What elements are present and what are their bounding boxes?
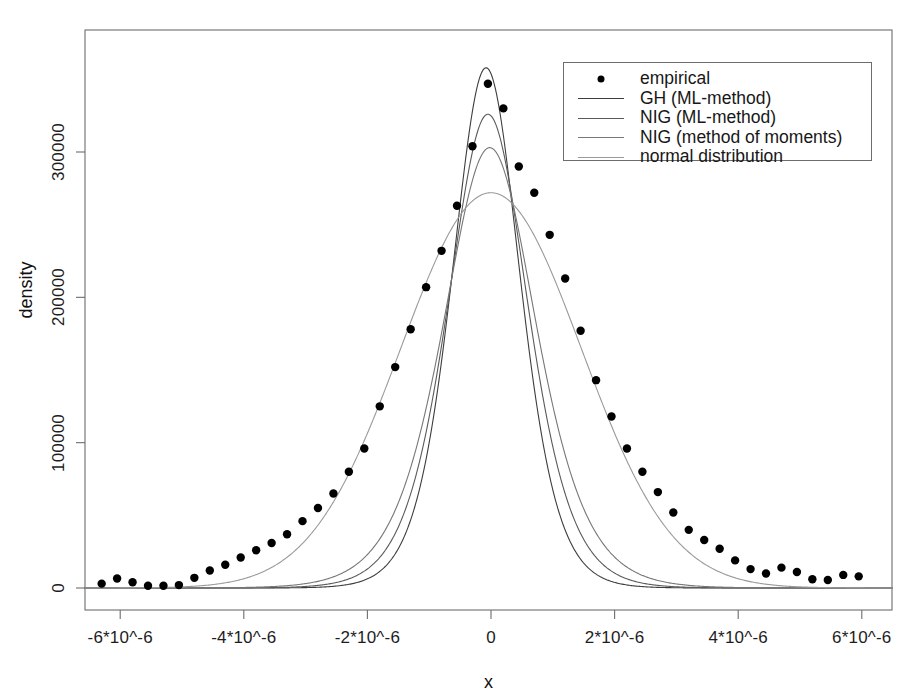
- empirical-point: [731, 556, 739, 564]
- density-curve: [85, 114, 892, 588]
- legend-label: NIG (method of moments): [640, 129, 842, 147]
- empirical-point: [314, 504, 322, 512]
- empirical-point: [422, 283, 430, 291]
- x-tick-label: 2*10^-6: [585, 628, 644, 648]
- empirical-point: [283, 530, 291, 538]
- empirical-point: [654, 488, 662, 496]
- legend-line-icon: [578, 157, 624, 158]
- empirical-point: [746, 565, 754, 573]
- legend-entry: NIG (method of moments): [578, 129, 842, 147]
- empirical-point: [839, 571, 847, 579]
- empirical-point: [623, 444, 631, 452]
- legend-dot-icon: [598, 75, 605, 82]
- empirical-point: [824, 576, 832, 584]
- y-axis-title: density: [16, 261, 37, 318]
- empirical-point: [546, 231, 554, 239]
- empirical-point: [113, 574, 121, 582]
- empirical-point: [515, 162, 523, 170]
- legend-line-icon: [578, 137, 624, 138]
- empirical-point: [638, 468, 646, 476]
- empirical-point: [592, 376, 600, 384]
- empirical-point: [700, 536, 708, 544]
- legend-line-marker-icon: [578, 150, 624, 164]
- density-chart-figure: -6*10^-6-4*10^-6-2*10^-602*10^-64*10^-66…: [0, 0, 917, 698]
- y-tick-label: 0: [49, 583, 69, 593]
- legend-line-marker-icon: [578, 130, 624, 144]
- y-tick-label: 100000: [49, 414, 69, 472]
- empirical-point: [669, 508, 677, 516]
- empirical-point: [437, 247, 445, 255]
- legend-label: NIG (ML-method): [640, 109, 776, 127]
- empirical-point: [530, 188, 538, 196]
- legend-label: normal distribution: [640, 148, 783, 166]
- legend-label: empirical: [640, 70, 710, 88]
- empirical-point: [345, 468, 353, 476]
- legend-label: GH (ML-method): [640, 90, 771, 108]
- empirical-point: [685, 526, 693, 534]
- tick-marks: [76, 152, 862, 619]
- empirical-point: [576, 327, 584, 335]
- empirical-point: [607, 412, 615, 420]
- density-curve: [85, 148, 892, 588]
- legend-line-icon: [578, 118, 624, 119]
- legend-line-icon: [578, 98, 624, 99]
- legend-entry: GH (ML-method): [578, 90, 771, 108]
- empirical-point: [561, 274, 569, 282]
- legend-entry: NIG (ML-method): [578, 109, 776, 127]
- y-tick-label: 300000: [49, 123, 69, 181]
- empirical-point: [808, 575, 816, 583]
- legend-entry: normal distribution: [578, 148, 783, 166]
- empirical-point: [762, 569, 770, 577]
- empirical-point: [206, 566, 214, 574]
- empirical-point: [190, 574, 198, 582]
- empirical-point: [484, 79, 492, 87]
- x-tick-label: -4*10^-6: [211, 628, 276, 648]
- x-tick-label: 4*10^-6: [708, 628, 767, 648]
- empirical-point: [97, 579, 105, 587]
- empirical-point: [221, 561, 229, 569]
- legend-line-marker-icon: [578, 91, 624, 105]
- empirical-point: [144, 582, 152, 590]
- empirical-point: [391, 363, 399, 371]
- x-tick-label: 0: [486, 628, 496, 648]
- empirical-point: [237, 553, 245, 561]
- legend-line-marker-icon: [578, 111, 624, 125]
- empirical-point: [453, 202, 461, 210]
- empirical-point: [376, 402, 384, 410]
- legend-point-marker-icon: [578, 72, 624, 86]
- empirical-point: [468, 142, 476, 150]
- empirical-point: [128, 578, 136, 586]
- empirical-point: [793, 568, 801, 576]
- empirical-point: [298, 517, 306, 525]
- empirical-point: [329, 489, 337, 497]
- x-tick-label: 6*10^-6: [832, 628, 891, 648]
- empirical-point: [855, 572, 863, 580]
- empirical-point: [175, 581, 183, 589]
- empirical-point: [406, 325, 414, 333]
- empirical-point: [777, 563, 785, 571]
- x-axis-title: x: [484, 672, 493, 693]
- empirical-point: [267, 539, 275, 547]
- x-tick-label: -2*10^-6: [335, 628, 400, 648]
- empirical-point: [159, 582, 167, 590]
- y-tick-label: 200000: [49, 268, 69, 326]
- empirical-point: [360, 444, 368, 452]
- empirical-point: [715, 545, 723, 553]
- empirical-point: [499, 104, 507, 112]
- legend-entry: empirical: [578, 70, 710, 88]
- chart-legend: empiricalGH (ML-method)NIG (ML-method)NI…: [563, 62, 872, 161]
- x-tick-label: -6*10^-6: [88, 628, 153, 648]
- density-curve: [85, 193, 892, 588]
- empirical-point: [252, 546, 260, 554]
